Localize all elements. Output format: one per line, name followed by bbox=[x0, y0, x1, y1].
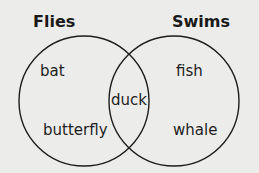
item-whale: whale bbox=[173, 121, 217, 139]
item-duck: duck bbox=[111, 91, 147, 109]
swims-title: Swims bbox=[172, 12, 230, 31]
flies-title: Flies bbox=[33, 12, 75, 31]
item-bat: bat bbox=[40, 62, 65, 80]
item-fish: fish bbox=[176, 62, 203, 80]
item-butterfly: butterfly bbox=[43, 121, 108, 139]
